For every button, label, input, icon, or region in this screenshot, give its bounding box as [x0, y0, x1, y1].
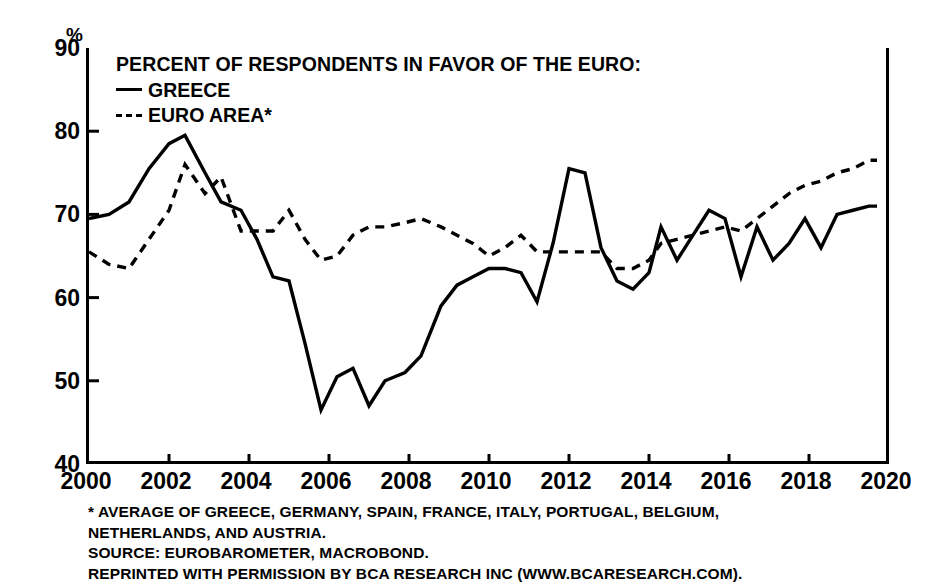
legend-swatch-dashed-icon [116, 114, 142, 117]
footnote-line: REPRINTED WITH PERMISSION BY BCA RESEARC… [88, 564, 918, 585]
x-tick-2012: 2012 [540, 470, 591, 493]
y-tick-50: 50 [28, 369, 80, 392]
legend-label-greece: GREECE [148, 78, 230, 104]
x-tick-2006: 2006 [300, 470, 351, 493]
euro-support-chart: % 405060708090 2000200220042006200820102… [0, 0, 928, 588]
x-tick-2018: 2018 [780, 470, 831, 493]
legend-swatch-solid-icon [116, 88, 142, 91]
legend-title: PERCENT OF RESPONDENTS IN FAVOR OF THE E… [116, 52, 716, 78]
x-tick-2016: 2016 [700, 470, 751, 493]
legend-item-greece: GREECE [116, 78, 716, 104]
y-tick-80: 80 [28, 120, 80, 143]
footnote-line: SOURCE: EUROBAROMETER, MACROBOND. [88, 543, 918, 564]
y-tick-70: 70 [28, 203, 80, 226]
x-tick-2004: 2004 [220, 470, 271, 493]
footnote-line: NETHERLANDS, AND AUSTRIA. [88, 523, 918, 544]
x-tick-2002: 2002 [140, 470, 191, 493]
x-tick-2010: 2010 [460, 470, 511, 493]
x-tick-2020: 2020 [860, 470, 911, 493]
x-tick-2000: 2000 [60, 470, 111, 493]
x-axis-tick-labels: 2000200220042006200820102012201420162018… [0, 470, 928, 500]
legend-item-euro-area: EURO AREA* [116, 103, 716, 129]
y-tick-60: 60 [28, 286, 80, 309]
chart-legend: PERCENT OF RESPONDENTS IN FAVOR OF THE E… [116, 52, 716, 129]
series-line-greece [89, 135, 877, 410]
footnote-block: * AVERAGE OF GREECE, GERMANY, SPAIN, FRA… [88, 502, 918, 584]
x-tick-2014: 2014 [620, 470, 671, 493]
y-tick-90: 90 [28, 37, 80, 60]
legend-label-euro-area: EURO AREA* [148, 103, 272, 129]
footnote-line: * AVERAGE OF GREECE, GERMANY, SPAIN, FRA… [88, 502, 918, 523]
x-tick-2008: 2008 [380, 470, 431, 493]
